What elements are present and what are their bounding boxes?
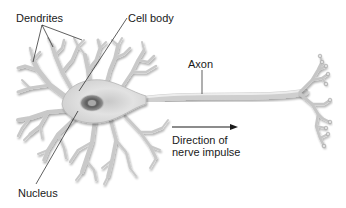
direction-arrow-icon: [172, 124, 238, 130]
neuron-illustration: [0, 0, 346, 208]
label-dendrites: Dendrites: [16, 12, 63, 24]
label-direction-line1: Direction of: [172, 134, 240, 146]
label-axon: Axon: [188, 58, 213, 70]
nucleus: [79, 94, 105, 112]
axon-terminals: [300, 56, 330, 146]
axon: [140, 90, 305, 100]
label-cell-body: Cell body: [128, 12, 174, 24]
label-nucleus: Nucleus: [18, 187, 58, 199]
label-direction-of-impulse: Direction of nerve impulse: [172, 134, 240, 158]
label-direction-line2: nerve impulse: [172, 146, 240, 158]
